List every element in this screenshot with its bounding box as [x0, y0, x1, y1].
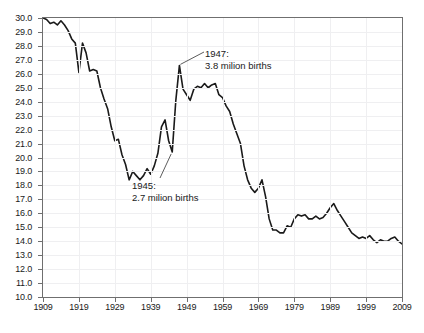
x-axis-tick-label: 2009 [392, 302, 411, 312]
x-axis-tick-label: 1989 [321, 302, 340, 312]
gridline-vertical [366, 18, 367, 297]
gridline-vertical [187, 18, 188, 297]
x-axis-tick-mark [294, 298, 295, 302]
y-axis-tick-label: 13.0 [0, 250, 32, 260]
y-axis-tick-label: 19.0 [0, 166, 32, 176]
x-axis-tick-mark [79, 298, 80, 302]
y-axis-tick-label: 27.0 [0, 55, 32, 65]
x-axis-tick-label: 1969 [249, 302, 268, 312]
x-axis-tick-mark [402, 298, 403, 302]
y-axis-tick-label: 17.0 [0, 194, 32, 204]
gridline-vertical [115, 18, 116, 297]
y-axis-tick-label: 30.0 [0, 13, 32, 23]
y-axis-tick-label: 23.0 [0, 111, 32, 121]
x-axis-tick-label: 1929 [105, 302, 124, 312]
y-axis-tick-label: 10.0 [0, 292, 32, 302]
gridline-vertical [151, 18, 152, 297]
x-axis-tick-label: 1949 [177, 302, 196, 312]
x-axis-tick-mark [151, 298, 152, 302]
x-axis-tick-label: 1939 [141, 302, 160, 312]
y-axis-tick-label: 29.0 [0, 27, 32, 37]
x-axis-tick-label: 1919 [69, 302, 88, 312]
gridline-vertical [294, 18, 295, 297]
y-axis-tick-label: 20.0 [0, 153, 32, 163]
y-axis-tick-label: 12.0 [0, 264, 32, 274]
x-axis-tick-label: 1999 [356, 302, 375, 312]
x-axis-tick-mark [330, 298, 331, 302]
x-axis-tick-label: 1909 [33, 302, 52, 312]
y-axis-tick-label: 22.0 [0, 125, 32, 135]
chart-figure: 30.029.028.027.026.025.024.023.022.021.0… [0, 0, 424, 333]
y-axis-tick-label: 16.0 [0, 208, 32, 218]
x-axis-tick-mark [258, 298, 259, 302]
x-axis-tick-mark [187, 298, 188, 302]
y-axis-tick-label: 18.0 [0, 180, 32, 190]
y-axis-tick-label: 24.0 [0, 97, 32, 107]
annotation-1945-line1: 1945: [132, 180, 199, 192]
y-axis-tick-label: 11.0 [0, 278, 32, 288]
gridline-vertical [79, 18, 80, 297]
annotation-1947-line1: 1947: [205, 48, 272, 60]
y-axis-tick-label: 26.0 [0, 69, 32, 79]
x-axis-tick-label: 1979 [285, 302, 304, 312]
y-axis-tick-label: 14.0 [0, 236, 32, 246]
x-axis-tick-mark [115, 298, 116, 302]
annotation-1945-line2: 2.7 milion births [132, 192, 199, 204]
x-axis-tick-mark [366, 298, 367, 302]
y-axis-tick-label: 28.0 [0, 41, 32, 51]
gridline-vertical [330, 18, 331, 297]
x-axis-tick-mark [43, 298, 44, 302]
annotation-1947-line2: 3.8 milion births [205, 60, 272, 72]
y-axis-tick-label: 21.0 [0, 139, 32, 149]
annotation-1947: 1947: 3.8 milion births [205, 48, 272, 71]
x-axis-tick-label: 1959 [213, 302, 232, 312]
y-axis-tick-label: 25.0 [0, 83, 32, 93]
y-axis-tick-label: 15.0 [0, 222, 32, 232]
x-axis-tick-mark [223, 298, 224, 302]
annotation-1945: 1945: 2.7 milion births [132, 180, 199, 203]
